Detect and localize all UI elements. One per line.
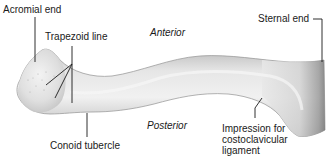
label-impression-costoclavicular-ligament: Impression for costoclavicular ligament [222,123,302,156]
label-sternal-end: Sternal end [258,13,309,24]
label-impression-line-1: Impression for [222,123,302,134]
label-posterior: Posterior [147,120,187,131]
label-anterior: Anterior [150,27,185,38]
label-acromial-end: Acromial end [3,4,61,15]
label-impression-line-3: ligament [222,145,302,156]
leader-sternal-end [313,19,322,62]
acromial-end-shape [18,49,66,112]
clavicle-diagram: Acromial end Trapezoid line Anterior Ste… [0,0,327,162]
label-conoid-tubercle: Conoid tubercle [50,140,120,151]
label-trapezoid-line: Trapezoid line [45,31,107,42]
label-impression-line-2: costoclavicular [222,134,302,145]
